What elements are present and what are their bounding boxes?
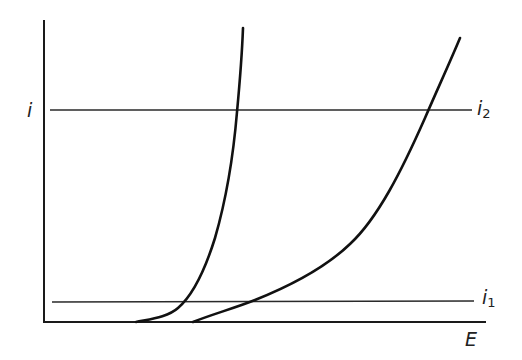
level-line-i1 bbox=[52, 301, 474, 302]
y-axis-label-text: i bbox=[27, 99, 32, 121]
x-axis-label: E bbox=[465, 330, 477, 349]
diagram-canvas bbox=[0, 0, 522, 360]
level-label-i1: i1 bbox=[482, 288, 496, 309]
y-axis-label: i bbox=[27, 101, 32, 120]
level-label-i2: i2 bbox=[477, 99, 491, 120]
curve-right bbox=[193, 38, 460, 322]
x-axis-label-text: E bbox=[465, 328, 477, 350]
level-label-i1-subscript: 1 bbox=[487, 295, 495, 310]
curve-left bbox=[136, 28, 243, 322]
level-label-i2-subscript: 2 bbox=[482, 106, 490, 121]
